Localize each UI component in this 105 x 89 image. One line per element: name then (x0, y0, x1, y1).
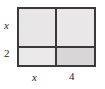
area-cell-top-right (57, 9, 94, 46)
label-bottom-width-4: 4 (69, 71, 75, 82)
label-bottom-width-x: x (32, 72, 37, 83)
area-cell-top-left (19, 9, 55, 46)
vertical-divider-line (55, 9, 57, 65)
area-model-rectangle (17, 7, 96, 67)
horizontal-divider-line (19, 46, 94, 48)
label-left-height-2: 2 (4, 48, 10, 59)
area-model-figure: x 2 x 4 (0, 0, 105, 89)
area-cell-bottom-right (57, 48, 94, 65)
area-cell-bottom-left (19, 48, 55, 65)
label-left-height-x: x (4, 20, 9, 31)
